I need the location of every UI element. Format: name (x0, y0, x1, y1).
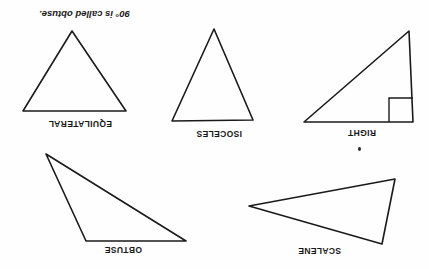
label-isoceles: ISOCELES (196, 129, 242, 139)
label-equilateral: EQUILATERAL (48, 119, 112, 129)
worksheet-page: SCALENE OBTUSE RIGHT ISOCELES (0, 0, 429, 269)
right-angle-mark-icon (389, 98, 413, 122)
right-triangle-icon (284, 16, 429, 141)
label-right: RIGHT (348, 128, 376, 138)
caption-obtuse-note: 90° is called obtuse. (39, 9, 130, 20)
scan-speck-icon (358, 147, 361, 151)
label-obtuse: OBTUSE (104, 245, 142, 255)
figure-isoceles (144, 16, 284, 141)
figure-right (284, 16, 429, 141)
label-scalene: SCALENE (298, 246, 341, 256)
isoceles-triangle-icon (144, 16, 284, 141)
scanned-sheet: SCALENE OBTUSE RIGHT ISOCELES (0, 0, 429, 269)
